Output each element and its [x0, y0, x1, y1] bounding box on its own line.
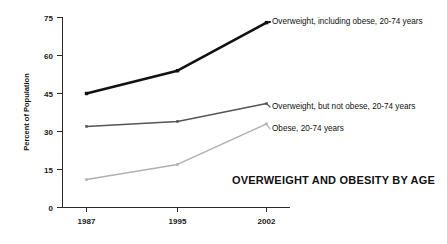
y-tick-label-0: 0	[49, 204, 54, 213]
series-label-obese: Obese, 20-74 years	[272, 124, 344, 133]
y-tick-label-15: 15	[44, 166, 53, 175]
series-3	[85, 123, 270, 181]
series-2	[85, 102, 270, 127]
y-axis-ticks	[57, 18, 63, 208]
chart-title: OVERWEIGHT AND OBESITY BY AGE	[232, 174, 435, 186]
data-point-1-1995	[176, 69, 179, 72]
x-axis-ticks	[87, 208, 267, 213]
x-tick-label-1995: 1995	[169, 217, 187, 226]
data-point-3-1995	[176, 163, 179, 166]
data-point-3-1987	[85, 178, 88, 181]
series-label-overweight-including-obese: Overweight, including obese, 20-74 years	[272, 17, 423, 26]
series-line-3	[87, 124, 267, 180]
series-1	[85, 21, 270, 95]
x-tick-label-2002: 2002	[258, 217, 276, 226]
data-point-1-1987	[85, 92, 88, 95]
data-point-2-2002	[265, 102, 268, 105]
y-tick-label-60: 60	[44, 52, 53, 61]
y-tick-label-30: 30	[44, 128, 53, 137]
series-layer	[85, 21, 270, 181]
y-tick-label-45: 45	[44, 90, 53, 99]
data-point-3-2002	[265, 123, 268, 126]
series-line-2	[87, 104, 267, 127]
chart-container: 75 60 45 30 15 0 Percent of Population 1…	[0, 0, 447, 244]
y-tick-label-75: 75	[44, 14, 53, 23]
data-point-2-1987	[85, 125, 88, 128]
line-chart: 75 60 45 30 15 0 Percent of Population 1…	[0, 0, 447, 244]
y-axis-title: Percent of Population	[22, 73, 31, 151]
series-line-1	[87, 23, 267, 94]
x-tick-label-1987: 1987	[78, 217, 96, 226]
data-point-2-1995	[176, 120, 179, 123]
series-label-overweight-not-obese: Overweight, but not obese, 20-74 years	[272, 102, 415, 111]
data-point-1-2002	[265, 21, 268, 24]
